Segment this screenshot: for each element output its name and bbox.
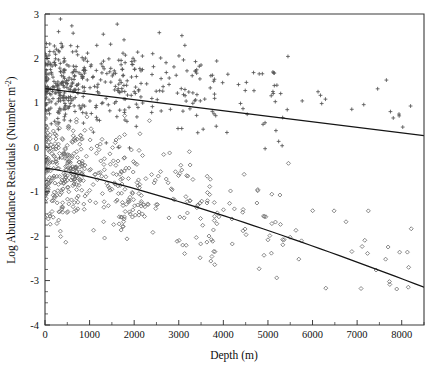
plot-svg: 010002000300040005000600070008000 3210-1…: [0, 0, 431, 380]
y-tick-label: 3: [34, 9, 39, 20]
figure-background: [0, 0, 431, 380]
y-tick-label: -3: [30, 275, 39, 286]
x-tick-label: 0: [42, 329, 47, 340]
y-axis-title: Log Abundance Residuals (Number m-2): [4, 76, 18, 264]
y-tick-label: 0: [34, 142, 39, 153]
x-tick-label: 4000: [213, 329, 234, 340]
y-tick-label: -4: [30, 320, 39, 331]
y-tick-label: -2: [30, 231, 39, 242]
svg-text:Log Abundance Residuals (Numbe: Log Abundance Residuals (Number m-2): [4, 76, 18, 264]
x-axis-title: Depth (m): [210, 349, 258, 362]
y-tick-label: -1: [30, 186, 39, 197]
x-tick-label: 5000: [257, 329, 278, 340]
x-tick-label: 7000: [347, 329, 368, 340]
x-tick-label: 3000: [168, 329, 189, 340]
x-tick-label: 6000: [302, 329, 323, 340]
x-tick-label: 2000: [124, 329, 145, 340]
x-tick-label: 8000: [391, 329, 412, 340]
y-tick-label: 1: [34, 97, 39, 108]
y-tick-label: 2: [34, 53, 39, 64]
x-tick-label: 1000: [79, 329, 100, 340]
scatter-plot-figure: 010002000300040005000600070008000 3210-1…: [0, 0, 431, 380]
